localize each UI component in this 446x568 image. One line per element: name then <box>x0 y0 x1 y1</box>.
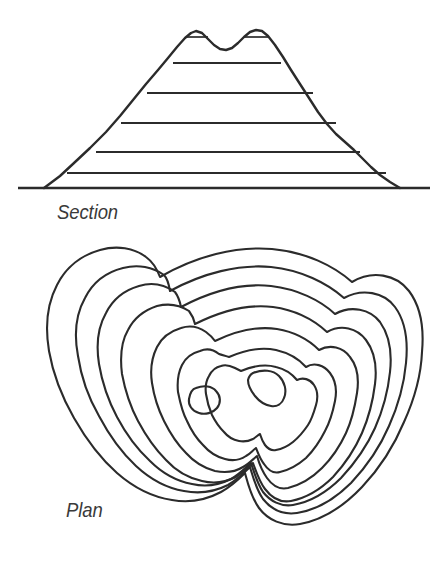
summit-ring-left <box>189 386 220 413</box>
plan-view-group <box>47 248 423 525</box>
contour-ring-4 <box>121 305 376 502</box>
contour-ring-7-innermost <box>206 365 318 450</box>
figure-canvas <box>0 0 446 568</box>
summit-ring-right <box>248 371 285 407</box>
summit-rings-group <box>189 371 286 414</box>
hill-profile-line <box>44 30 400 188</box>
section-level-lines-group <box>67 63 386 173</box>
section-view-group <box>18 30 430 188</box>
contour-figure: Section Plan <box>0 0 446 568</box>
plan-label: Plan <box>66 498 103 522</box>
section-label: Section <box>57 200 118 224</box>
contour-ring-6 <box>178 349 336 473</box>
contour-rings-group <box>47 248 423 525</box>
